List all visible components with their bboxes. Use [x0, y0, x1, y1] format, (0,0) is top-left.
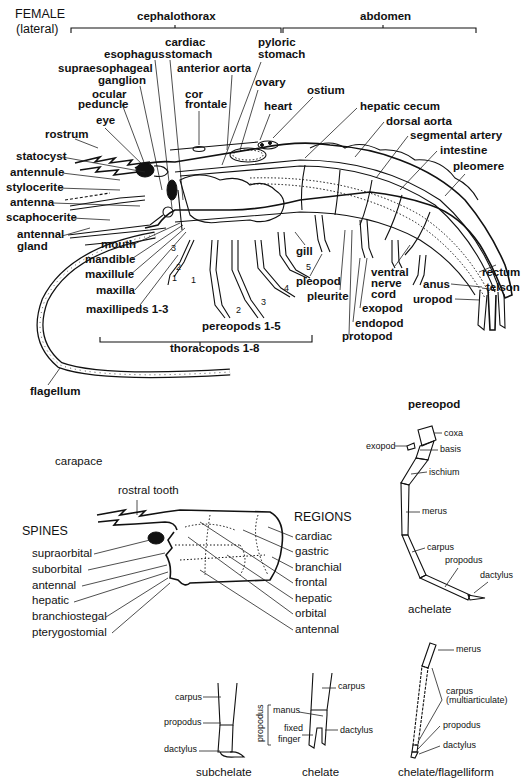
region-cardiac: cardiac — [295, 530, 332, 542]
shrimp-anatomy-diagram: FEMALE (lateral) cephalothorax abdomen c… — [0, 0, 523, 782]
part-exopod: exopod — [366, 441, 396, 451]
label-ovary: ovary — [255, 76, 286, 88]
label-antennal-gland-2: gland — [17, 240, 48, 252]
label-pyloric-stomach-2: stomach — [258, 48, 305, 60]
label-eye: eye — [96, 114, 115, 126]
subchelate-dactylus: dactylus — [164, 744, 198, 754]
label-gill: gill — [296, 245, 313, 257]
chelate-finger: finger — [278, 734, 301, 744]
label-dorsal-aorta: dorsal aorta — [386, 115, 452, 127]
chelate-fixed: fixed — [284, 723, 303, 733]
region-orbital: orbital — [295, 607, 326, 619]
bracket-cephalothorax — [71, 25, 281, 33]
maxilliped-number-2: 2 — [176, 262, 181, 272]
label-segmental-artery: segmental artery — [410, 129, 503, 141]
flagelliform-figure: merus carpus (multiarticulate) propodus … — [398, 643, 508, 778]
label-anterior-aorta: anterior aorta — [177, 62, 252, 74]
label-uropod: uropod — [413, 293, 453, 305]
carapace-figure: carapace rostral tooth SPINES supraorbit… — [22, 455, 352, 638]
part-ischium: ischium — [429, 467, 460, 477]
label-protopod: protopod — [342, 330, 392, 342]
label-rostral-tooth: rostral tooth — [118, 484, 179, 496]
part-propodus: propodus — [445, 555, 483, 565]
spine-antennal: antennal — [32, 579, 76, 591]
chelate-caption: chelate — [302, 766, 339, 778]
label-cardiac-stomach: cardiac — [165, 36, 206, 48]
label-pleomere: pleomere — [453, 160, 504, 172]
label-cor-frontale-2: frontale — [185, 98, 227, 110]
label-pleopod: pleopod — [296, 275, 341, 287]
maxilliped-number-1: 1 — [172, 273, 177, 283]
title-view: (lateral) — [16, 22, 58, 36]
part-carpus: carpus — [427, 542, 455, 552]
label-endopod: endopod — [355, 317, 404, 329]
label-supraesophageal-ganglion-2: ganglion — [98, 74, 146, 86]
label-intestine: intestine — [440, 144, 487, 156]
label-cardiac-stomach-2: stomach — [165, 48, 212, 60]
label-maxillule: maxillule — [85, 268, 134, 280]
spine-supraorbital: supraorbital — [32, 547, 92, 559]
flagelliform-propodus: propodus — [443, 720, 481, 730]
left-labels: rostrum statocyst antennule stylocerite … — [6, 128, 168, 315]
regions-heading: REGIONS — [294, 510, 352, 524]
spines-heading: SPINES — [22, 524, 68, 538]
spine-hepatic: hepatic — [32, 594, 69, 606]
region-hepatic: hepatic — [295, 592, 332, 604]
achelate-caption: achelate — [408, 603, 451, 615]
label-supraesophageal-ganglion: supraesophageal — [58, 62, 153, 74]
chelate-figure: carpus manus fixed finger dactylus propo… — [255, 673, 374, 778]
label-rostrum: rostrum — [45, 128, 88, 140]
region-branchial: branchial — [295, 561, 342, 573]
label-esophagus: esophagus — [104, 48, 165, 60]
subchelate-carpus: carpus — [175, 692, 203, 702]
label-flagellum: flagellum — [30, 385, 80, 397]
label-statocyst: statocyst — [16, 150, 67, 162]
label-hepatic-cecum: hepatic cecum — [360, 100, 440, 112]
label-thoracopods: thoracopods 1-8 — [170, 342, 260, 354]
label-scaphocerite: scaphocerite — [6, 211, 77, 223]
leg-number-4: 4 — [284, 283, 289, 293]
flagelliform-merus: merus — [456, 644, 482, 654]
spine-pterygostomial: pterygostomial — [32, 626, 107, 638]
label-mandible: mandible — [85, 253, 135, 265]
chelate-carpus: carpus — [338, 681, 366, 691]
label-heart: heart — [264, 100, 292, 112]
label-pyloric-stomach: pyloric — [258, 36, 296, 48]
label-anus: anus — [423, 278, 450, 290]
chelate-dactylus: dactylus — [340, 725, 374, 735]
leg-number-1: 1 — [191, 275, 196, 285]
maxilliped-number-3: 3 — [171, 243, 176, 253]
spine-branchiostegal: branchiostegal — [32, 610, 107, 622]
label-pleurite: pleurite — [307, 290, 349, 302]
region-frontal: frontal — [295, 576, 327, 588]
region-gastric: gastric — [295, 545, 329, 557]
label-ocular-peduncle-2: peduncle — [78, 98, 128, 110]
part-dactylus: dactylus — [480, 570, 514, 580]
leg-number-2: 2 — [236, 305, 241, 315]
subchelate-caption: subchelate — [196, 766, 252, 778]
pereopod-figure: pereopod coxa exopod basis ischium merus… — [366, 398, 514, 615]
region-antennal: antennal — [295, 623, 339, 635]
subchelate-propodus: propodus — [164, 717, 202, 727]
part-coxa: coxa — [444, 428, 463, 438]
label-antenna: antenna — [10, 196, 55, 208]
label-telson: telson — [486, 281, 520, 293]
label-rectum: rectum — [482, 266, 520, 278]
title-sex: FEMALE — [15, 7, 65, 21]
leg-number-5: 5 — [306, 262, 311, 272]
label-ventral-nerve-cord-3: cord — [371, 288, 396, 300]
part-basis: basis — [440, 444, 462, 454]
label-mouth: mouth — [101, 238, 136, 250]
flagelliform-caption: chelate/flagelliform — [398, 766, 494, 778]
chelate-manus: manus — [273, 705, 301, 715]
label-ostium: ostium — [307, 84, 345, 96]
pereopod-title: pereopod — [408, 398, 460, 410]
flagelliform-dactylus: dactylus — [443, 740, 477, 750]
label-maxilla: maxilla — [96, 284, 136, 296]
label-pereopods: pereopods 1-5 — [202, 320, 281, 332]
upper-labels: cardiac stomach esophagus pyloric stomac… — [58, 36, 504, 172]
spine-suborbital: suborbital — [32, 563, 82, 575]
part-merus: merus — [422, 506, 448, 516]
subchelate-figure: carpus propodus dactylus subchelate — [164, 683, 252, 778]
label-antennule: antennule — [10, 166, 64, 178]
